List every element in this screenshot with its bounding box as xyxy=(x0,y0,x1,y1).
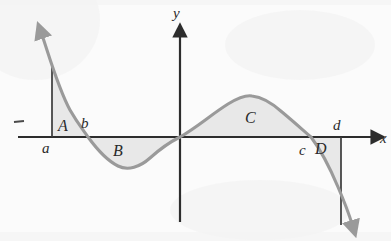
x-axis-label: x xyxy=(380,131,387,146)
shaded-region-b xyxy=(84,134,186,176)
shaded-region-a xyxy=(40,50,100,142)
y-axis-label: y xyxy=(173,6,180,21)
point-label-b: b xyxy=(81,116,89,131)
region-label-d: D xyxy=(315,141,327,157)
region-label-c: C xyxy=(245,110,256,126)
point-label-a: a xyxy=(42,141,50,156)
region-label-b: B xyxy=(113,143,123,159)
left-tick-mark xyxy=(14,121,24,122)
figure-canvas: y x a b c d A B C D xyxy=(0,0,391,241)
point-label-d: d xyxy=(333,118,341,133)
point-label-c: c xyxy=(299,143,306,158)
region-label-a: A xyxy=(58,118,68,134)
